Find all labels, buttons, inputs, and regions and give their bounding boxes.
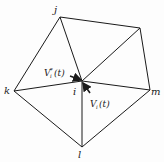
edge-i-k [14,81,82,91]
mesh-svg: j k i m l V * i (t) V i (t) [0,0,164,162]
svg-text:i: i [96,104,98,110]
edge-l-k [14,91,82,147]
vertex-label-l: l [78,149,81,160]
vertex-label-m: m [151,86,160,97]
edge-k-j [14,17,60,91]
edge-i-m [82,81,150,90]
vertex-label-i: i [73,86,76,97]
vector-v-star-arrow [70,76,81,80]
svg-text:(t): (t) [99,99,110,109]
svg-text:(t): (t) [54,68,65,78]
vertex-label-k: k [4,85,10,96]
mesh-edges [14,17,150,147]
edge-n-m [140,28,150,90]
mesh-diagram: j k i m l V * i (t) V i (t) [0,0,164,162]
svg-text:i: i [50,73,52,79]
edge-i-n [82,28,140,81]
vertex-label-j: j [52,4,57,15]
vector-v-star-label: V * i (t) [44,67,65,79]
vector-v-label: V i (t) [90,99,110,110]
edge-j-n [60,17,140,28]
vector-v-arrow [83,83,90,93]
